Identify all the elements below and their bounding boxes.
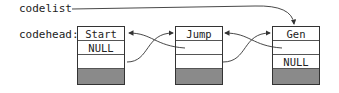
gen-prev-pointer — [225, 33, 282, 48]
codelist-pointer — [72, 6, 294, 24]
jump-prev-pointer — [129, 33, 185, 48]
pointer-arrows — [0, 0, 339, 93]
